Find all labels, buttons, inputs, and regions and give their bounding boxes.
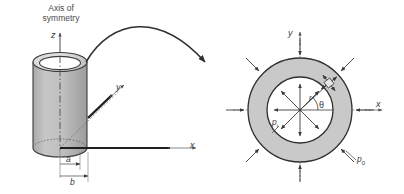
axis-x-label-right: x [376, 99, 381, 109]
radius-label: r [309, 93, 312, 102]
axis-z-label: z [51, 30, 56, 40]
figure-canvas [0, 0, 404, 194]
internal-pressure-subscript: i [277, 123, 278, 129]
external-pressure-subscript: 0 [362, 160, 365, 166]
internal-pressure-label: pi [272, 118, 278, 130]
axis-x-label-left: x [190, 140, 195, 150]
angle-theta-label: θ [319, 100, 324, 110]
dimension-b-label: b [70, 178, 75, 188]
callout-curve [86, 27, 205, 62]
external-pressure-label: p0 [357, 155, 365, 167]
axis-y-label-right: y [288, 28, 293, 38]
thick-walled-cylinder-figure: Axis of symmetry z y x a b y x r θ pi p0 [0, 0, 404, 194]
axis-y-left [88, 95, 112, 118]
external-pressure-arrow-sw [246, 149, 259, 162]
axis-y-label-left: y [116, 82, 121, 92]
axis-of-symmetry-label: Axis of symmetry [31, 4, 91, 24]
axis-of-symmetry-line2: symmetry [31, 14, 91, 24]
dimension-a-label: a [66, 155, 71, 165]
left-cylinder-group [33, 33, 196, 182]
external-pressure-arrow-nw [246, 58, 259, 71]
external-pressure-arrow-se [341, 149, 354, 162]
external-pressure-arrow-ne [341, 58, 354, 71]
